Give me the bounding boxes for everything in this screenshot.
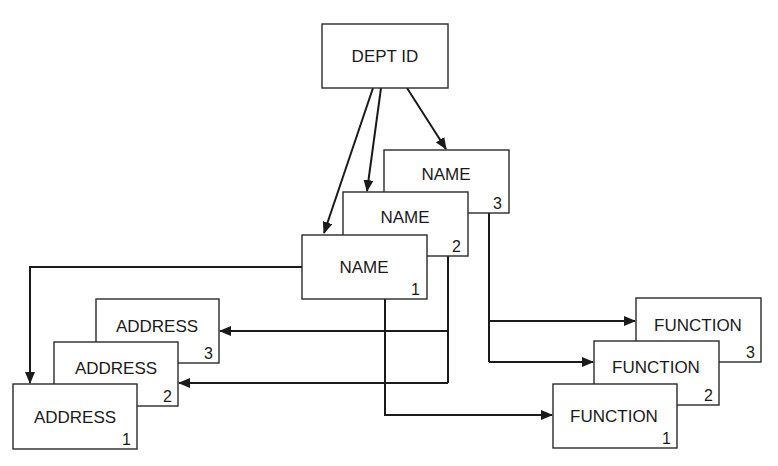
name-1-label: NAME bbox=[339, 258, 388, 277]
dept-id-node: DEPT ID bbox=[322, 24, 448, 88]
address-3-index: 3 bbox=[204, 345, 213, 362]
name-1-index: 1 bbox=[411, 281, 420, 298]
function-2-index: 2 bbox=[704, 387, 713, 404]
function-3-index: 3 bbox=[746, 344, 755, 361]
function-3-label: FUNCTION bbox=[654, 316, 742, 335]
edge-dept-to-name2 bbox=[367, 88, 381, 191]
name-2-index: 2 bbox=[452, 238, 461, 255]
dept-id-label: DEPT ID bbox=[352, 47, 419, 66]
hierarchy-diagram: DEPT ID NAME 3 NAME 2 NAME 1 ADDRESS 3 A… bbox=[0, 0, 778, 466]
function-1-label: FUNCTION bbox=[570, 407, 658, 426]
name-2-label: NAME bbox=[380, 208, 429, 227]
name-3-label: NAME bbox=[421, 165, 470, 184]
function-1-index: 1 bbox=[662, 430, 671, 447]
name-3-index: 3 bbox=[493, 195, 502, 212]
address-1-index: 1 bbox=[122, 431, 131, 448]
function-2-label: FUNCTION bbox=[612, 358, 700, 377]
edge-name1-to-function1 bbox=[385, 299, 552, 415]
address-node-1: ADDRESS 1 bbox=[13, 384, 137, 449]
edge-dept-to-name3 bbox=[407, 88, 446, 149]
function-node-1: FUNCTION 1 bbox=[553, 384, 677, 448]
address-2-label: ADDRESS bbox=[75, 359, 157, 378]
address-2-index: 2 bbox=[163, 388, 172, 405]
address-1-label: ADDRESS bbox=[34, 408, 116, 427]
address-3-label: ADDRESS bbox=[116, 317, 198, 336]
name-node-1: NAME 1 bbox=[302, 235, 427, 299]
